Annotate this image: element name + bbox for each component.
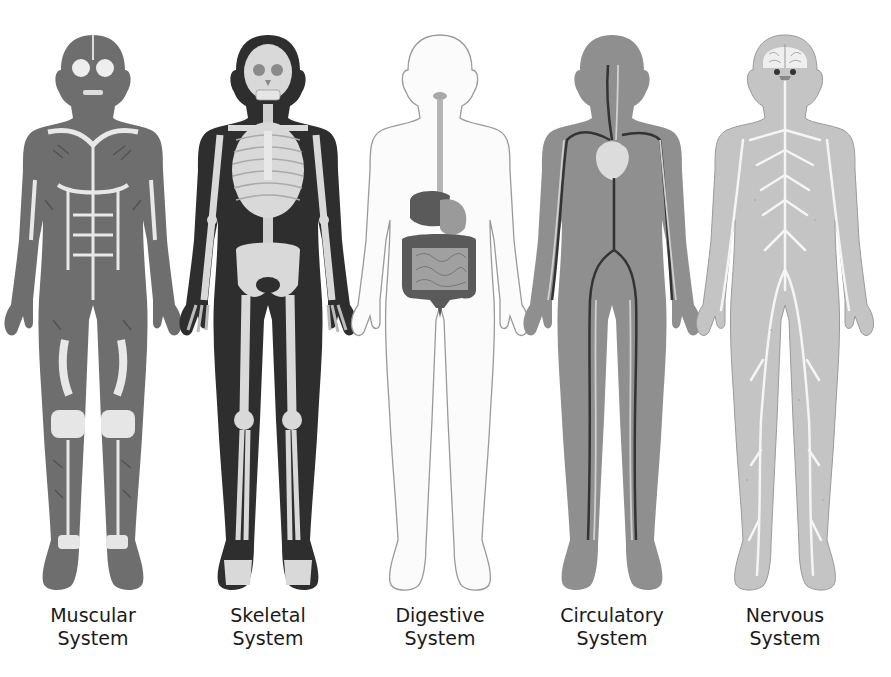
digestive-system-figure: Digestive System <box>350 0 530 600</box>
label-line-1: Nervous <box>695 604 875 627</box>
label-line-1: Digestive <box>350 604 530 627</box>
nervous-body-icon <box>695 0 875 600</box>
skeletal-system-figure: Skeletal System <box>178 0 358 600</box>
digestive-body-icon <box>350 0 530 600</box>
circulatory-body-icon <box>522 0 702 600</box>
label-line-1: Muscular <box>3 604 183 627</box>
label-line-2: System <box>3 627 183 650</box>
label-line-2: System <box>522 627 702 650</box>
nervous-system-label: Nervous System <box>695 604 875 650</box>
skeletal-system-label: Skeletal System <box>178 604 358 650</box>
muscular-body-icon <box>3 0 183 600</box>
label-line-1: Skeletal <box>178 604 358 627</box>
circulatory-system-figure: Circulatory System <box>522 0 702 600</box>
nervous-system-figure: Nervous System <box>695 0 875 600</box>
label-line-2: System <box>695 627 875 650</box>
muscular-system-label: Muscular System <box>3 604 183 650</box>
muscular-system-figure: Muscular System <box>3 0 183 600</box>
circulatory-system-label: Circulatory System <box>522 604 702 650</box>
digestive-system-label: Digestive System <box>350 604 530 650</box>
label-line-2: System <box>178 627 358 650</box>
label-line-1: Circulatory <box>522 604 702 627</box>
label-line-2: System <box>350 627 530 650</box>
skeletal-body-icon <box>178 0 358 600</box>
